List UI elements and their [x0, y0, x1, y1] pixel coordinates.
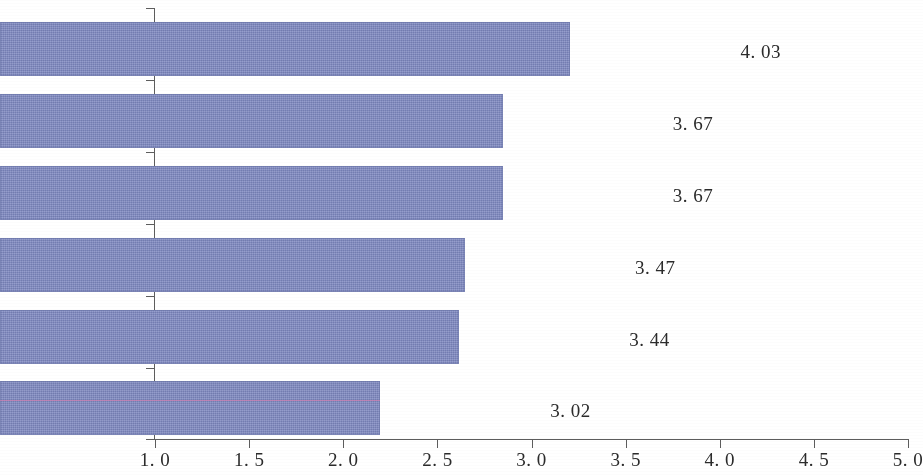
- value-label-3: 3. 47: [635, 258, 676, 277]
- x-axis-tick-label: 1. 0: [140, 450, 171, 469]
- y-axis-tick: [146, 152, 155, 153]
- x-axis-tick-label: 3. 0: [516, 450, 547, 469]
- x-axis-tick: [437, 440, 438, 448]
- x-axis-tick: [532, 440, 533, 448]
- y-axis-tick: [146, 368, 155, 369]
- value-label-1: 3. 67: [673, 114, 714, 133]
- x-axis-tick: [155, 440, 156, 448]
- x-axis-tick: [814, 440, 815, 448]
- x-axis-tick-label: 3. 5: [610, 450, 641, 469]
- bar-0: [0, 22, 570, 76]
- bar-1: [0, 94, 503, 148]
- x-axis-tick-label: 1. 5: [234, 450, 265, 469]
- value-label-4: 3. 44: [629, 330, 670, 349]
- x-axis-tick: [343, 440, 344, 448]
- bar-4: [0, 310, 459, 364]
- bar-chart: 互联网安全 信息与数据素养 交流合作 设备与软件操作 策略性学习 内容创造 4.…: [0, 0, 923, 475]
- bar-2: [0, 166, 503, 220]
- bar-3: [0, 238, 465, 292]
- x-axis-tick-label: 2. 0: [328, 450, 359, 469]
- value-label-0: 4. 03: [740, 42, 781, 61]
- x-axis-tick-label: 5. 0: [893, 450, 923, 469]
- y-axis-tick: [146, 296, 155, 297]
- x-axis-tick: [249, 440, 250, 448]
- y-axis-tick: [146, 224, 155, 225]
- bar-5: [0, 381, 380, 435]
- value-label-2: 3. 67: [673, 186, 714, 205]
- x-axis-tick-label: 4. 0: [705, 450, 736, 469]
- y-axis-tick: [146, 80, 155, 81]
- x-axis-tick-label: 2. 5: [422, 450, 453, 469]
- y-axis-tick: [146, 8, 155, 9]
- value-label-5: 3. 02: [550, 401, 591, 420]
- y-axis-tick: [146, 439, 155, 440]
- x-axis-tick-label: 4. 5: [799, 450, 830, 469]
- x-axis-tick: [626, 440, 627, 448]
- x-axis-tick: [720, 440, 721, 448]
- x-axis-tick: [908, 440, 909, 448]
